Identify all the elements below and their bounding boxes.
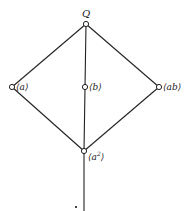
label-a2: ⟨a2⟩	[88, 150, 104, 162]
lattice-diagram: Q ⟨a⟩ ⟨b⟩ ⟨ab⟩ ⟨a2⟩	[0, 0, 188, 211]
cutoff-mark	[75, 206, 77, 208]
edge-a-a2	[12, 87, 84, 151]
edge-q-b	[85, 24, 86, 87]
node-b	[82, 84, 87, 89]
label-ab: ⟨ab⟩	[163, 82, 181, 92]
edge-b-a2	[84, 87, 85, 151]
label-a: ⟨a⟩	[16, 82, 28, 92]
label-q: Q	[82, 8, 90, 19]
node-a2	[81, 148, 86, 153]
node-a	[9, 84, 14, 89]
edge-ab-a2	[84, 87, 159, 151]
edge-q-ab	[86, 24, 159, 87]
node-q	[83, 21, 88, 26]
node-ab	[156, 84, 161, 89]
edge-q-a	[12, 24, 86, 87]
label-b: ⟨b⟩	[89, 82, 102, 92]
